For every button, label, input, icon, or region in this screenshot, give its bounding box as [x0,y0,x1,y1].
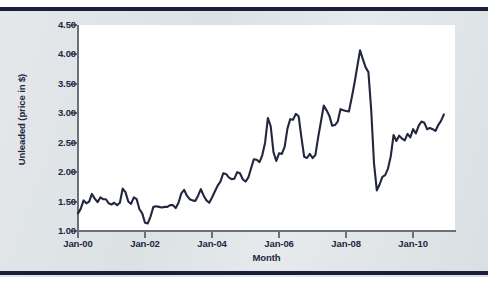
y-tick-label: 3.50 [36,78,76,89]
bottom-rule [0,271,488,275]
y-tick-label: 3.00 [36,107,76,118]
x-tick-label: Jan-00 [50,238,106,249]
y-tick-label: 2.50 [36,137,76,148]
x-tick-label: Jan-08 [318,238,374,249]
y-tick-label: 4.00 [36,48,76,59]
x-tick-label: Jan-04 [184,238,240,249]
y-axis-line [77,25,79,232]
x-tick-label: Jan-10 [385,238,441,249]
plot-area [78,25,455,231]
x-tick-label: Jan-02 [117,238,173,249]
x-axis-line [77,230,456,232]
y-axis-title: Unleaded (price in $) [16,45,27,195]
chart-figure: 1.001.502.002.503.003.504.004.50 Jan-00J… [0,0,488,287]
y-tick-label: 2.00 [36,166,76,177]
y-tick-label: 1.50 [36,196,76,207]
top-rule [0,7,488,11]
x-tick-label: Jan-06 [251,238,307,249]
y-tick-label: 4.50 [36,19,76,30]
y-tick-label: 1.00 [36,225,76,236]
x-axis-title: Month [78,252,455,263]
